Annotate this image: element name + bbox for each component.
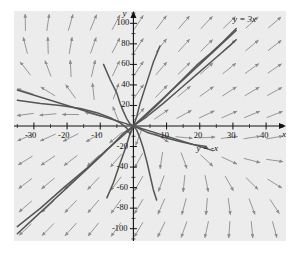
field-arrow xyxy=(136,130,142,146)
field-arrow xyxy=(88,223,99,236)
y-tick-label: 60 xyxy=(121,58,130,68)
field-arrow xyxy=(65,223,76,236)
field-arrow xyxy=(200,155,213,166)
field-arrow xyxy=(19,178,33,188)
field-arrow xyxy=(228,198,230,215)
field-arrow xyxy=(70,60,71,77)
x-tick-label: 30 xyxy=(227,130,236,140)
field-arrow xyxy=(158,222,165,237)
x-tick-label: -30 xyxy=(25,130,36,140)
field-arrow xyxy=(200,63,213,74)
y-tick-label: 80 xyxy=(121,38,130,48)
field-arrow xyxy=(246,178,258,190)
field-arrow xyxy=(134,222,143,237)
x-axis-label: x xyxy=(282,129,286,139)
field-arrow xyxy=(201,40,213,52)
x-tick-label: 20 xyxy=(194,130,203,140)
field-arrow xyxy=(40,134,55,141)
field-arrow xyxy=(19,201,32,212)
field-arrow xyxy=(41,178,54,189)
field-arrow xyxy=(178,16,189,29)
field-arrow xyxy=(244,136,261,139)
field-arrow xyxy=(177,86,190,97)
field-arrow xyxy=(41,87,55,96)
field-arrow xyxy=(91,60,95,77)
field-arrow xyxy=(201,16,213,28)
line-label-y-equals-3x: y = 3x xyxy=(233,14,256,24)
field-arrow xyxy=(158,176,164,192)
field-arrow xyxy=(267,87,282,95)
field-arrow xyxy=(68,14,73,30)
field-arrow xyxy=(156,62,167,75)
field-arrow xyxy=(90,15,97,31)
field-arrow xyxy=(222,87,236,96)
y-tick-label: -20 xyxy=(117,141,128,151)
field-arrow xyxy=(154,110,168,120)
field-arrow xyxy=(266,136,283,139)
field-arrow xyxy=(41,156,55,166)
field-arrow xyxy=(245,64,259,74)
field-arrow xyxy=(17,113,34,115)
field-arrow xyxy=(135,153,143,168)
field-arrow xyxy=(267,179,281,188)
field-arrow xyxy=(178,39,189,52)
field-arrow xyxy=(268,64,282,74)
field-arrow xyxy=(92,83,94,100)
y-axis-arrowhead xyxy=(130,11,136,18)
field-arrow xyxy=(183,175,185,192)
field-arrow xyxy=(266,159,283,161)
field-arrow xyxy=(200,87,214,97)
field-arrow xyxy=(181,222,187,238)
field-arrow xyxy=(20,62,31,75)
y-tick-label: -40 xyxy=(117,161,128,171)
field-arrow xyxy=(270,199,279,213)
field-arrow xyxy=(90,37,96,53)
x-tick-label: 10 xyxy=(161,130,170,140)
field-arrow xyxy=(205,175,208,192)
y-tick-label: -80 xyxy=(117,202,128,212)
field-arrow xyxy=(18,156,32,165)
field-arrow xyxy=(223,63,236,74)
field-arrow xyxy=(268,40,281,50)
field-arrow xyxy=(65,200,77,212)
field-arrow xyxy=(88,200,99,213)
field-arrow xyxy=(222,111,238,118)
field-arrow xyxy=(181,153,187,169)
field-arrow xyxy=(206,198,207,215)
field-arrow xyxy=(42,223,54,235)
axes-group xyxy=(14,11,286,241)
y-axis-label: y xyxy=(122,8,126,18)
field-arrow xyxy=(249,199,255,215)
field-arrow xyxy=(112,61,119,76)
y-tick-label: 40 xyxy=(121,79,130,89)
line-label-y-equals-minus-x: y = -x xyxy=(196,143,218,153)
field-arrow xyxy=(69,37,72,54)
field-arrow xyxy=(244,111,260,117)
field-arrow xyxy=(251,221,253,238)
field-arrow xyxy=(134,176,143,191)
field-arrow xyxy=(134,199,143,214)
field-arrow xyxy=(66,85,76,99)
field-arrow xyxy=(268,17,281,28)
field-arrow xyxy=(267,111,283,117)
field-arrow xyxy=(158,199,165,215)
y-tick-label: -100 xyxy=(112,223,128,233)
y-tick-label: 20 xyxy=(121,99,130,109)
field-arrow xyxy=(160,152,163,169)
x-tick-label: -10 xyxy=(91,130,102,140)
y-tick-label: 100 xyxy=(117,17,130,27)
field-arrow xyxy=(176,137,193,139)
field-arrow xyxy=(134,38,143,52)
plot-area xyxy=(14,11,286,241)
field-arrow xyxy=(245,40,258,51)
field-arrow xyxy=(45,61,51,77)
x-tick-label: 40 xyxy=(260,130,269,140)
field-arrow xyxy=(182,198,186,214)
field-arrow xyxy=(23,37,27,53)
vector-field-canvas xyxy=(14,11,286,241)
field-arrow xyxy=(225,176,233,191)
field-arrow xyxy=(272,221,277,237)
field-arrow xyxy=(205,221,209,238)
field-arrow xyxy=(244,158,260,162)
field-arrow xyxy=(87,155,100,166)
